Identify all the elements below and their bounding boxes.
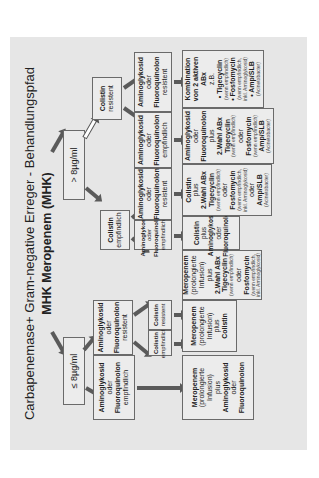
l3-colistin-empfindlich-box: Colistinempfindlich [148, 330, 172, 356]
arrow [174, 80, 182, 84]
therapy-box-2: Meropenem(prolongierteInfusion)plusColis… [182, 300, 237, 352]
treatment-pathway-diagram: Carbapenemase+ Gram-negative Erreger - B… [10, 37, 307, 450]
mic-low-box: ≤ 8µg/ml [63, 337, 85, 405]
arrow [85, 186, 100, 199]
amino-resistent-box: AminoglykosidoderFluoroquinolonresistent [93, 300, 133, 355]
therapy-box-1: Meropenem(prolongierteInfusion)plusAmino… [182, 355, 254, 420]
arrow [133, 340, 149, 355]
colistin-empfindlich-box: Colistinempfindlich [100, 210, 130, 250]
arrow [174, 138, 182, 142]
arrow [174, 313, 182, 317]
amino-empfindlich-box: AminoglykosidoderFluoroquinolonempfindli… [93, 355, 135, 420]
mic-high-box: > 8µg/ml [63, 130, 85, 200]
arrow [174, 192, 182, 196]
therapy-box-3: Meropenem(prolongierteInfusion)plus2.Wah… [182, 250, 262, 300]
diagram-title: Carbapenemase+ Gram-negative Erreger - B… [22, 37, 37, 450]
l3-amino-box-2: AminoglykosidoderFluoroquinolonresistent [134, 168, 172, 220]
therapy-box-6: AminoglykosidoderFluoroquinolonplus2.Wah… [182, 108, 274, 164]
therapy-box-7: Kombinationvon 2 aktivenABxz.B.• Tigecyc… [182, 50, 264, 108]
hollow-arrow [82, 118, 97, 140]
l3-colistin-resistent-box: Colistinresistent [148, 300, 172, 330]
arrow [174, 342, 182, 346]
therapy-box-4: ColistinplusAminoglykosidoderFluoroquino… [182, 216, 240, 250]
colistin-resistent-box: Colistinresistent [92, 77, 122, 120]
arrow [174, 234, 182, 238]
l3-amino-box-4: AminoglykosidoderFluoroquinolonresistent [134, 52, 172, 112]
arrow [137, 386, 181, 390]
l3-amino-box-3: AminoglykosidoderFluoroquinolonempfindli… [134, 112, 172, 168]
l3-amino-box-1: AminoglykosidoderFluoroquinolonempfindli… [134, 220, 172, 250]
therapy-box-5: Colistinplus2.Wahl ABxTigecyclin(wenn em… [182, 164, 272, 216]
diagram-subtitle: MHK Meropenem (MHK) [40, 37, 54, 450]
